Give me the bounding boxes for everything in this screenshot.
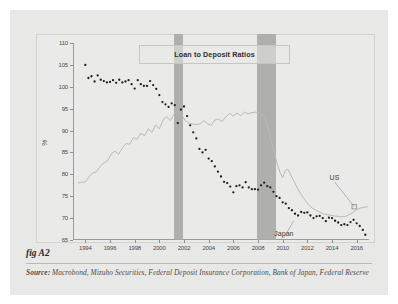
series-point xyxy=(315,215,317,217)
series-point xyxy=(208,157,210,159)
series-japan xyxy=(78,110,368,216)
series-point xyxy=(232,191,234,193)
series-point xyxy=(87,77,89,79)
series-point xyxy=(272,191,274,193)
series-point xyxy=(195,137,197,139)
series-point xyxy=(149,80,151,82)
series-point xyxy=(198,148,200,150)
series-point xyxy=(312,217,314,219)
series-point xyxy=(106,81,108,83)
source-text: Macrobond, Mizuho Securities, Federal De… xyxy=(52,268,369,277)
series-point xyxy=(319,215,321,217)
series-point xyxy=(171,102,173,104)
series-point xyxy=(340,224,342,226)
plot-area: 65707580859095100105110 1994199619982000… xyxy=(36,34,375,243)
series-point xyxy=(306,211,308,213)
series-point xyxy=(137,79,139,81)
series-point xyxy=(356,222,358,224)
series-point xyxy=(343,223,345,225)
series-point xyxy=(100,79,102,81)
x-tick-label: 1994 xyxy=(79,245,92,251)
series-canvas xyxy=(36,34,375,243)
series-point xyxy=(325,220,327,222)
x-tick-label: 2000 xyxy=(153,245,166,251)
series-point xyxy=(235,185,237,187)
series-point xyxy=(364,234,366,236)
figure-card: 65707580859095100105110 1994199619982000… xyxy=(10,10,388,295)
series-point xyxy=(109,81,111,83)
series-point xyxy=(245,181,247,183)
us-annotation-leader-line xyxy=(334,182,354,207)
series-point xyxy=(204,149,206,151)
series-point xyxy=(130,83,132,85)
series-point xyxy=(146,85,148,87)
series-point xyxy=(223,181,225,183)
series-point xyxy=(84,64,86,66)
y-axis-label: % xyxy=(41,140,48,146)
x-tick-label: 2002 xyxy=(178,245,191,251)
series-point xyxy=(161,101,163,103)
series-point xyxy=(285,203,287,205)
series-point xyxy=(309,214,311,216)
series-point xyxy=(300,211,302,213)
series-point xyxy=(192,131,194,133)
figure-number-label: fig A2 xyxy=(26,248,50,258)
series-point xyxy=(337,221,339,223)
series-point xyxy=(334,220,336,222)
series-point xyxy=(359,225,361,227)
japan-annotation: Japan xyxy=(274,230,293,237)
series-point xyxy=(251,188,253,190)
series-point xyxy=(328,217,330,219)
series-point xyxy=(189,124,191,126)
series-point xyxy=(257,189,259,191)
series-point xyxy=(177,122,179,124)
series-point xyxy=(220,175,222,177)
series-point xyxy=(90,75,92,77)
series-point xyxy=(103,80,105,82)
series-point xyxy=(134,87,136,89)
series-point xyxy=(158,94,160,96)
x-tick-label: 2010 xyxy=(276,245,289,251)
series-point xyxy=(121,81,123,83)
series-point xyxy=(211,160,213,162)
series-point xyxy=(152,84,154,86)
series-point xyxy=(288,207,290,209)
series-point xyxy=(346,224,348,226)
x-tick-label: 1998 xyxy=(128,245,141,251)
series-us xyxy=(84,64,366,236)
chart-plot-panel: 65707580859095100105110 1994199619982000… xyxy=(36,34,375,243)
series-point xyxy=(254,188,256,190)
series-point xyxy=(186,115,188,117)
series-point xyxy=(291,209,293,211)
series-point xyxy=(263,182,265,184)
series-point xyxy=(118,79,120,81)
series-point xyxy=(115,82,117,84)
series-point xyxy=(180,108,182,110)
series-point xyxy=(266,185,268,187)
series-point xyxy=(349,221,351,223)
series-point xyxy=(164,103,166,105)
series-point xyxy=(322,217,324,219)
series-point xyxy=(297,214,299,216)
chart-title-box: Loan to Deposit Ratios xyxy=(139,45,290,64)
x-tick-label: 2012 xyxy=(301,245,314,251)
series-point xyxy=(278,197,280,199)
series-point xyxy=(282,201,284,203)
source-line: Source: Macrobond, Mizuho Securities, Fe… xyxy=(26,268,376,277)
series-point xyxy=(331,217,333,219)
series-point xyxy=(201,151,203,153)
x-tick-label: 2008 xyxy=(252,245,265,251)
x-tick-label: 2014 xyxy=(326,245,339,251)
series-point xyxy=(143,85,145,87)
series-point xyxy=(124,80,126,82)
series-line-japan xyxy=(78,110,368,216)
x-tick-label: 2006 xyxy=(227,245,240,251)
series-point xyxy=(174,104,176,106)
series-point xyxy=(303,212,305,214)
series-point xyxy=(183,105,185,107)
series-point xyxy=(275,195,277,197)
us-annotation: US xyxy=(330,174,340,181)
source-label: Source: xyxy=(26,268,50,277)
series-point xyxy=(238,184,240,186)
series-point xyxy=(167,106,169,108)
